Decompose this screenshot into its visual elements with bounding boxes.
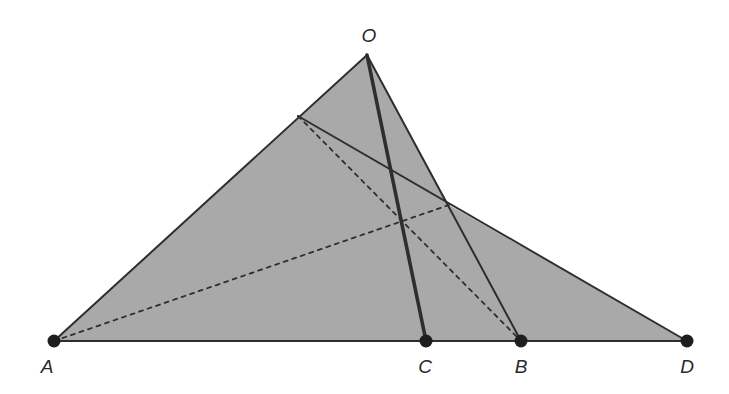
point-label-d: D	[680, 357, 694, 376]
point-marker-d	[681, 335, 694, 348]
point-label-c: C	[418, 357, 432, 376]
point-marker-a	[48, 335, 61, 348]
geometry-diagram	[0, 0, 729, 394]
point-marker-b	[515, 335, 528, 348]
point-label-a: A	[41, 357, 54, 376]
point-label-b: B	[515, 357, 528, 376]
point-label-o: O	[362, 26, 377, 45]
shaded-region	[54, 55, 687, 341]
point-marker-c	[420, 335, 433, 348]
